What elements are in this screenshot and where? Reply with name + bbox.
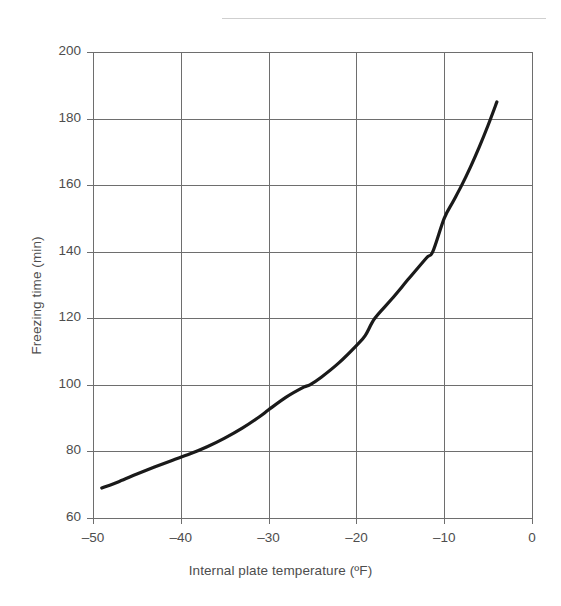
y-tick-label: 100 (41, 376, 81, 391)
y-tick-label: 120 (41, 309, 81, 324)
x-tick-label: –50 (71, 530, 115, 545)
y-axis-title: Freezing time (min) (29, 186, 44, 406)
y-tick-label: 200 (41, 43, 81, 58)
x-axis-title: Internal plate temperature (ºF) (0, 563, 561, 578)
y-tick-label: 80 (41, 442, 81, 457)
plot-canvas (0, 0, 561, 606)
data-series-line (102, 102, 497, 488)
tickmarks-group (87, 53, 533, 525)
x-tick-label: –40 (159, 530, 203, 545)
y-tick-label: 140 (41, 243, 81, 258)
y-tick-label: 60 (41, 509, 81, 524)
y-tick-label: 180 (41, 110, 81, 125)
x-tick-label: –10 (422, 530, 466, 545)
x-tick-label: 0 (510, 530, 554, 545)
chart-figure: 6080100120140160180200 –50–40–30–20–100 … (0, 0, 561, 606)
x-tick-label: –20 (334, 530, 378, 545)
x-tick-label: –30 (247, 530, 291, 545)
gridlines-group (93, 52, 533, 519)
y-tick-label: 160 (41, 176, 81, 191)
